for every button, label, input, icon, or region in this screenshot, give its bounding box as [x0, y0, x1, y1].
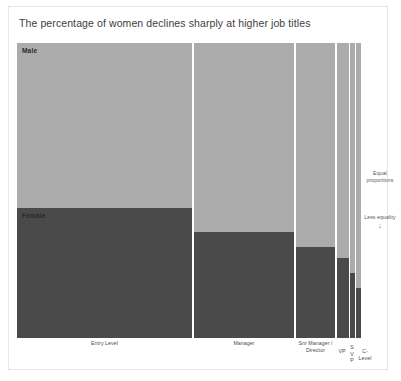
- segment-female-svp[interactable]: [350, 273, 355, 338]
- segment-female-manager[interactable]: [194, 232, 294, 338]
- column-entry-level[interactable]: Male Female: [17, 43, 192, 338]
- chart-title: The percentage of women declines sharply…: [19, 17, 369, 29]
- annotation-equal-proportions: Equal proportions: [359, 170, 401, 184]
- segment-male-snr-manager-director[interactable]: [296, 43, 335, 247]
- segment-male-svp[interactable]: [350, 43, 355, 273]
- marimekko-plot: Male Female: [17, 43, 353, 338]
- segment-male-vp[interactable]: [337, 43, 349, 258]
- down-arrow-icon: ↓: [359, 221, 401, 230]
- segment-male-c-level[interactable]: [356, 43, 361, 288]
- column-snr-manager-director[interactable]: [296, 43, 335, 338]
- annotation-less-equality: Less equality ↓: [359, 214, 401, 230]
- column-svp[interactable]: [350, 43, 355, 338]
- annotation-less-equality-text: Less equality: [364, 214, 396, 220]
- x-tick-vp: VP: [335, 348, 349, 355]
- x-tick-manager: Manager: [194, 340, 294, 347]
- x-axis-labels: Entry Level Manager Snr Manager / Direct…: [17, 340, 353, 380]
- segment-female-entry-level[interactable]: Female: [17, 208, 192, 338]
- segment-female-vp[interactable]: [337, 258, 349, 338]
- column-manager[interactable]: [194, 43, 294, 338]
- series-label-female: Female: [22, 212, 46, 219]
- series-label-male: Male: [22, 47, 37, 54]
- column-vp[interactable]: [337, 43, 349, 338]
- segment-male-manager[interactable]: [194, 43, 294, 232]
- column-c-level[interactable]: [356, 43, 361, 338]
- segment-male-entry-level[interactable]: Male: [17, 43, 192, 208]
- x-tick-entry-level: Entry Level: [17, 340, 192, 347]
- x-tick-snr-manager-director: Snr Manager / Director: [296, 340, 335, 353]
- x-tick-c-level: C- Level: [356, 348, 374, 361]
- segment-female-snr-manager-director[interactable]: [296, 247, 335, 338]
- segment-female-c-level[interactable]: [356, 288, 361, 338]
- x-tick-svp: S V P: [349, 344, 355, 364]
- chart-card: The percentage of women declines sharply…: [8, 6, 388, 370]
